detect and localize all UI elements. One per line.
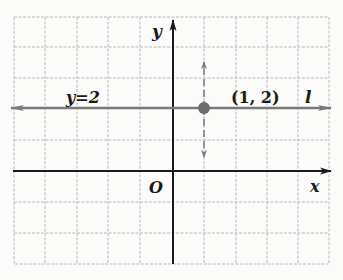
grid (14, 17, 329, 264)
origin-label: O (149, 178, 163, 197)
coordinate-plane-figure: y x O y=2 l (1, 2) (0, 0, 343, 280)
point-label: (1, 2) (231, 88, 280, 107)
y-axis-label: y (151, 21, 163, 41)
line-name-label: l (305, 87, 312, 107)
equation-label: y=2 (65, 88, 100, 107)
point-1-2 (198, 102, 210, 114)
x-axis-label: x (309, 177, 320, 196)
